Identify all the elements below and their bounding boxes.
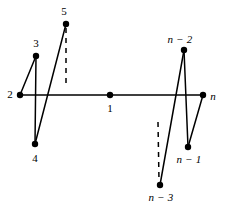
graph-edge bbox=[184, 50, 188, 147]
graph-node-dot bbox=[17, 92, 23, 98]
node-label-nm1: n − 1 bbox=[177, 154, 202, 165]
node-label-n4: 4 bbox=[32, 153, 38, 164]
node-label-nm3: n − 3 bbox=[149, 192, 174, 203]
node-label-n1: 1 bbox=[107, 103, 113, 114]
graph-edge bbox=[35, 24, 66, 144]
graph-node-dot bbox=[63, 21, 69, 27]
node-label-n5: 5 bbox=[61, 6, 67, 17]
graph-edge bbox=[160, 50, 184, 185]
continuation-dashes-icon bbox=[158, 122, 159, 181]
graph-edge bbox=[35, 56, 36, 144]
graph-node-dot bbox=[181, 47, 187, 53]
node-label-nm2: n − 2 bbox=[168, 34, 193, 45]
graph-node-dot bbox=[200, 92, 206, 98]
graph-edge bbox=[20, 56, 36, 95]
node-label-n3: 3 bbox=[33, 38, 39, 49]
graph-node-dot bbox=[107, 92, 113, 98]
node-label-n2: 2 bbox=[7, 89, 13, 100]
graph-node-dot bbox=[32, 141, 38, 147]
graph-edge bbox=[188, 95, 203, 147]
graph-diagram-figure: 12345n − 2n − 1n − 3n bbox=[0, 0, 225, 205]
graph-node-dot bbox=[185, 144, 191, 150]
node-label-nn: n bbox=[210, 91, 216, 102]
graph-node-dot bbox=[33, 53, 39, 59]
graph-node-dot bbox=[157, 182, 163, 188]
